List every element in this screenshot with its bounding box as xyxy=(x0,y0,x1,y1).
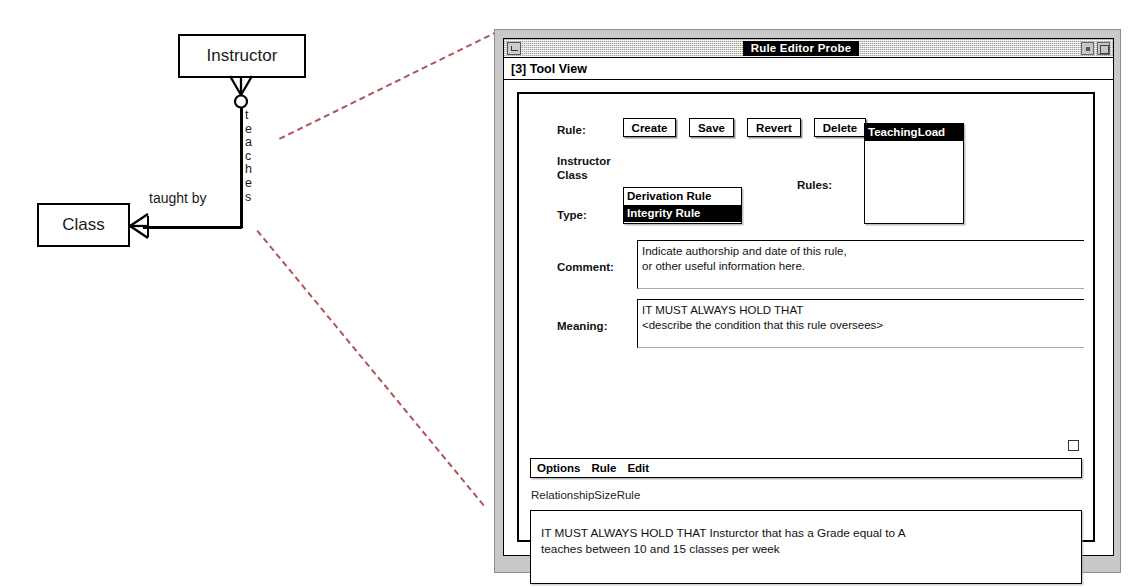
window-frame: Rule Editor Probe [3] Tool View Rule: Cr… xyxy=(503,38,1114,556)
meaning-field[interactable]: IT MUST ALWAYS HOLD THAT <describe the c… xyxy=(637,299,1084,348)
tool-view-label: [3] Tool View xyxy=(511,62,587,76)
teaches-letter: e xyxy=(245,123,252,137)
create-button[interactable]: Create xyxy=(623,118,676,137)
type-listbox[interactable]: Derivation Rule Integrity Rule xyxy=(623,187,742,224)
resize-handle-checkbox[interactable] xyxy=(1068,440,1079,451)
type-option-derivation-rule[interactable]: Derivation Rule xyxy=(624,188,741,205)
rule-editor-window: Rule Editor Probe [3] Tool View Rule: Cr… xyxy=(494,29,1121,573)
meaning-label: Meaning: xyxy=(557,319,607,333)
teaches-letter: c xyxy=(245,150,252,164)
cardinality-tick-class xyxy=(147,216,149,237)
menu-item-edit[interactable]: Edit xyxy=(627,462,649,474)
context-label-instructor: Instructor xyxy=(557,154,611,168)
teaches-letter: e xyxy=(245,177,252,191)
menu-item-rule[interactable]: Rule xyxy=(591,462,616,474)
rule-menu-bar: Options Rule Edit xyxy=(530,458,1082,478)
entity-label-instructor: Instructor xyxy=(207,46,278,66)
entity-box-class[interactable]: Class xyxy=(37,203,130,247)
tool-view-bar: [3] Tool View xyxy=(504,58,1113,80)
rules-label: Rules: xyxy=(797,178,832,192)
minimize-icon[interactable] xyxy=(507,42,521,55)
er-diagram: Instructor Class teaches taught by xyxy=(0,0,500,587)
relationship-label-teaches: teaches xyxy=(245,109,252,204)
crowsfoot-class-icon xyxy=(127,212,163,240)
comment-field[interactable]: Indicate authorship and date of this rul… xyxy=(637,240,1084,289)
save-button[interactable]: Save xyxy=(689,118,734,137)
context-label-class: Class xyxy=(557,168,588,182)
rule-text-editor[interactable]: IT MUST ALWAYS HOLD THAT Insturctor that… xyxy=(530,510,1082,584)
rule-row-label: Rule: xyxy=(557,123,586,137)
teaches-letter: t xyxy=(245,109,252,123)
type-label: Type: xyxy=(557,208,587,222)
relationship-line-vertical xyxy=(240,107,243,228)
type-option-integrity-rule[interactable]: Integrity Rule xyxy=(624,205,741,222)
comment-label: Comment: xyxy=(557,260,614,274)
relationship-label-taught-by: taught by xyxy=(149,190,207,206)
entity-label-class: Class xyxy=(62,215,105,235)
teaches-letter: h xyxy=(245,163,252,177)
teaches-letter: a xyxy=(245,136,252,150)
teaches-letter: s xyxy=(245,191,252,205)
rule-name-label: RelationshipSizeRule xyxy=(531,489,640,501)
entity-box-instructor[interactable]: Instructor xyxy=(178,34,306,78)
maximize-icon[interactable] xyxy=(1097,42,1110,55)
menu-item-options[interactable]: Options xyxy=(537,462,580,474)
crowsfoot-instructor-icon xyxy=(213,74,273,120)
title-bar[interactable]: Rule Editor Probe xyxy=(504,39,1113,58)
rule-editor-panel: Rule: Create Save Revert Delete Instruct… xyxy=(517,92,1095,542)
restore-icon[interactable] xyxy=(1081,42,1094,55)
revert-button[interactable]: Revert xyxy=(747,118,801,137)
rules-listbox[interactable]: TeachingLoad xyxy=(864,123,964,224)
rules-list-item-teachingload[interactable]: TeachingLoad xyxy=(865,124,963,141)
window-title-label: Rule Editor Probe xyxy=(743,41,860,56)
window-title: Rule Editor Probe xyxy=(521,42,1081,54)
tool-content: Rule: Create Save Revert Delete Instruct… xyxy=(504,80,1113,555)
delete-button[interactable]: Delete xyxy=(814,118,866,137)
